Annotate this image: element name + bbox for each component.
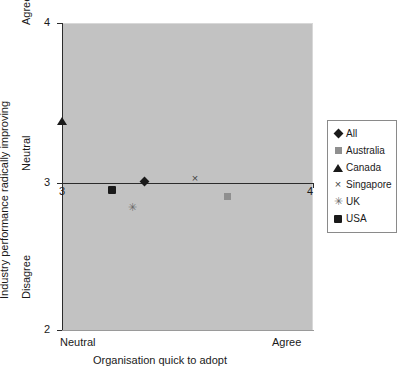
- y-axis-line: [62, 23, 63, 331]
- x-axis-title: Organisation quick to adopt: [0, 355, 320, 366]
- data-point-singapore: ×: [188, 171, 202, 185]
- legend-item-canada[interactable]: Canada: [332, 159, 393, 176]
- x-tick-label-4: 4: [307, 186, 313, 197]
- legend-label: All: [346, 129, 357, 139]
- cross-marker-icon: ×: [332, 179, 344, 191]
- x-anchor-agree: Agree: [272, 337, 301, 348]
- x-anchor-neutral: Neutral: [60, 337, 95, 348]
- legend-item-uk[interactable]: ✳UK: [332, 193, 393, 210]
- y-anchor-disagree: Disagree: [21, 255, 32, 299]
- chart-legend: AllAustraliaCanada×Singapore✳UKUSA: [327, 120, 397, 233]
- data-point-canada: [55, 114, 69, 128]
- y-anchor-neutral: Neutral: [21, 136, 32, 171]
- star-marker-icon: ✳: [332, 196, 344, 208]
- y-tick-label-4: 4: [44, 17, 50, 28]
- black-square-marker-icon: [332, 213, 344, 225]
- x-tick-mark-4: [313, 183, 314, 188]
- y-anchor-agree: Agree: [21, 0, 32, 25]
- legend-item-usa[interactable]: USA: [332, 210, 393, 227]
- y-tick-mark-2: [57, 330, 62, 331]
- legend-item-all[interactable]: All: [332, 125, 393, 142]
- legend-label: Canada: [346, 163, 381, 173]
- data-point-usa: [105, 183, 119, 197]
- legend-item-singapore[interactable]: ×Singapore: [332, 176, 393, 193]
- legend-label: Singapore: [346, 180, 392, 190]
- y-tick-mark-4: [57, 23, 62, 24]
- gray-square-marker-icon: [332, 145, 344, 157]
- legend-item-australia[interactable]: Australia: [332, 142, 393, 159]
- data-point-uk: ✳: [125, 200, 139, 214]
- legend-label: USA: [346, 214, 367, 224]
- scatter-chart-figure: 4 3 2 3 4 Agree Neutral Disagree Neutral…: [0, 0, 401, 375]
- legend-label: UK: [346, 197, 360, 207]
- x-axis-line: [62, 330, 314, 331]
- diamond-marker-icon: [332, 128, 344, 140]
- x-tick-label-3: 3: [59, 186, 65, 197]
- data-point-australia: [221, 189, 235, 203]
- data-point-all: [138, 174, 152, 188]
- legend-label: Australia: [346, 146, 385, 156]
- y-tick-label-2: 2: [44, 324, 50, 335]
- y-axis-title: Industry performance radically improving: [0, 101, 10, 299]
- y-tick-label-3: 3: [44, 177, 50, 188]
- triangle-marker-icon: [332, 162, 344, 174]
